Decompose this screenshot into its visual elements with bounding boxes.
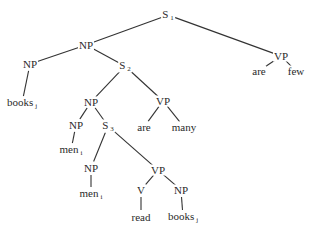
tree-node-vp_inner: VP xyxy=(150,165,166,176)
tree-node-books_j_left: booksj xyxy=(6,97,38,110)
tree-node-vp_right: VP xyxy=(273,51,289,62)
node-index-subscript: i xyxy=(101,193,103,201)
tree-edge-s1-np_top xyxy=(93,17,162,42)
node-index-subscript: i xyxy=(81,149,83,157)
tree-edge-s2-np_mid xyxy=(96,71,120,97)
node-label-text: books xyxy=(168,210,194,222)
tree-edge-np_men-men_i_1 xyxy=(72,132,74,143)
node-index-subscript: j xyxy=(35,102,37,110)
node-label-text: few xyxy=(288,65,305,77)
node-label-text: NP xyxy=(69,119,83,131)
node-label-text: books xyxy=(7,96,33,108)
node-index-subscript: 1 xyxy=(170,14,174,22)
node-label-text: V xyxy=(137,184,145,196)
node-index-subscript: j xyxy=(196,216,198,224)
tree-node-np_top: NP xyxy=(78,40,94,51)
tree-node-few: few xyxy=(287,66,306,77)
tree-edge-vp_mid-many xyxy=(167,106,179,121)
tree-node-np_mid: NP xyxy=(83,97,99,108)
node-label-text: VP xyxy=(156,95,170,107)
node-label-text: VP xyxy=(274,50,288,62)
tree-node-np_men: NP xyxy=(68,120,84,131)
tree-node-are_right: are xyxy=(251,66,266,77)
node-label-text: NP xyxy=(79,39,93,51)
tree-node-many: many xyxy=(171,122,197,133)
tree-edge-vp_mid-are_mid xyxy=(148,107,159,122)
node-label-text: NP xyxy=(23,58,37,70)
node-label-text: are xyxy=(137,121,150,133)
tree-node-s3: S3 xyxy=(101,120,115,133)
tree-node-np_inner: NP xyxy=(83,163,99,174)
node-label-text: NP xyxy=(84,96,98,108)
tree-node-are_mid: are xyxy=(136,122,151,133)
tree-node-s1: S1 xyxy=(161,9,175,22)
syntax-tree-edges xyxy=(0,0,312,237)
node-label-text: S xyxy=(119,59,125,71)
tree-node-men_i_1: meni xyxy=(59,144,84,157)
tree-node-s2: S2 xyxy=(118,60,132,73)
tree-edge-np_obj-books_j_obj xyxy=(182,197,183,210)
node-label-text: men xyxy=(80,187,99,199)
tree-node-v: V xyxy=(136,185,146,196)
node-label-text: many xyxy=(172,121,196,133)
tree-edge-np_left-books_j_left xyxy=(23,71,28,96)
tree-node-books_j_obj: booksj xyxy=(167,211,199,224)
node-index-subscript: 3 xyxy=(110,125,114,133)
tree-node-np_obj: NP xyxy=(173,185,189,196)
tree-edge-np_top-np_left xyxy=(37,47,80,62)
node-label-text: read xyxy=(132,211,151,223)
tree-node-vp_mid: VP xyxy=(155,96,171,107)
node-label-text: NP xyxy=(174,184,188,196)
tree-edge-np_top-s2 xyxy=(92,48,119,62)
tree-edge-s3-vp_inner xyxy=(113,131,152,166)
node-label-text: NP xyxy=(84,162,98,174)
node-label-text: are xyxy=(252,65,265,77)
node-label-text: S xyxy=(102,119,108,131)
tree-edge-vp_inner-v xyxy=(146,175,154,184)
node-label-text: men xyxy=(60,143,79,155)
tree-edge-s1-vp_right xyxy=(175,17,275,53)
node-index-subscript: 2 xyxy=(127,65,131,73)
tree-edge-s2-vp_mid xyxy=(130,71,158,97)
tree-node-men_i_2: meni xyxy=(79,188,104,201)
node-label-text: S xyxy=(162,8,168,20)
tree-edge-s3-np_inner xyxy=(94,132,106,161)
node-label-text: VP xyxy=(151,164,165,176)
tree-node-np_left: NP xyxy=(22,59,38,70)
tree-edge-np_mid-np_men xyxy=(80,108,87,119)
tree-node-read: read xyxy=(131,212,152,223)
